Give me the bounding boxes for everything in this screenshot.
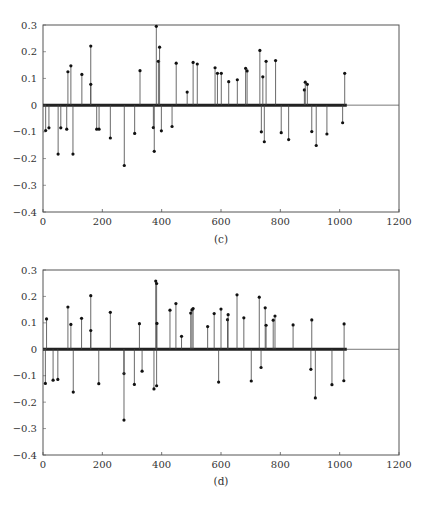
stem-marker: [69, 64, 72, 67]
stem-marker: [343, 72, 346, 75]
stem-marker: [325, 132, 328, 135]
stem-marker: [260, 130, 263, 133]
subfigure-caption: (d): [214, 475, 229, 487]
stem-marker: [342, 379, 345, 382]
stem-marker: [44, 382, 47, 385]
x-tick-label: 600: [211, 216, 230, 227]
stem-marker: [89, 294, 92, 297]
stem-marker: [310, 318, 313, 321]
x-tick-label: 400: [152, 216, 171, 227]
x-tick-label: 800: [271, 459, 290, 470]
stem-marker: [71, 152, 74, 155]
stem-marker: [264, 306, 267, 309]
x-tick-label: 200: [93, 216, 112, 227]
stem-marker: [310, 130, 313, 133]
x-tick-label: 1000: [327, 459, 352, 470]
stem-marker: [250, 379, 253, 382]
y-tick-label: −0.1: [13, 370, 37, 381]
stem-plot-c: 0200400600800100012000.30.20.10−0.1−0.2−…: [13, 20, 412, 246]
stem-marker: [155, 25, 158, 28]
y-tick-label: −0.2: [13, 397, 37, 408]
stem-marker: [59, 126, 62, 129]
stem-marker: [273, 314, 276, 317]
stem-marker: [236, 78, 239, 81]
stem-marker: [291, 323, 294, 326]
stem-marker: [65, 128, 68, 131]
stem-marker: [122, 419, 125, 422]
stem-marker: [226, 318, 229, 321]
stem-marker: [227, 80, 230, 83]
y-tick-label: 0.1: [21, 317, 37, 328]
y-tick-label: −0.3: [13, 180, 37, 191]
stem-marker: [69, 323, 72, 326]
stem-marker: [97, 382, 100, 385]
stem-marker: [155, 322, 158, 325]
y-tick-label: 0: [31, 100, 37, 111]
stem-marker: [138, 69, 141, 72]
stem-marker: [227, 313, 230, 316]
stem-marker: [213, 312, 216, 315]
stem-marker: [89, 83, 92, 86]
stem-marker: [264, 324, 267, 327]
stem-marker: [89, 329, 92, 332]
stem-marker: [261, 75, 264, 78]
stem-marker: [170, 125, 173, 128]
stem-marker: [219, 308, 222, 311]
stem-marker: [217, 380, 220, 383]
stem-marker: [123, 164, 126, 167]
stem-marker: [309, 368, 312, 371]
stem-marker: [155, 384, 158, 387]
y-tick-label: 0.3: [21, 20, 37, 31]
stem-marker: [274, 59, 277, 62]
plot-frame: [43, 270, 399, 455]
y-tick-label: −0.2: [13, 153, 37, 164]
stem-marker: [235, 293, 238, 296]
x-tick-label: 800: [271, 216, 290, 227]
stem-marker: [258, 296, 261, 299]
stem-marker: [160, 129, 163, 132]
stem-marker: [51, 379, 54, 382]
stem-plot-d: 0200400600800100012000.30.20.10−0.1−0.2−…: [13, 265, 412, 488]
y-tick-label: 0.2: [21, 291, 37, 302]
stem-marker: [155, 282, 158, 285]
y-tick-label: −0.3: [13, 423, 37, 434]
y-tick-label: −0.4: [13, 207, 37, 218]
stem-marker: [330, 383, 333, 386]
stem-marker: [213, 66, 216, 69]
x-tick-label: 1000: [327, 216, 352, 227]
stem-marker: [192, 307, 195, 310]
stem-marker: [315, 144, 318, 147]
y-tick-label: 0: [31, 344, 37, 355]
stem-marker: [89, 45, 92, 48]
stem-marker: [109, 136, 112, 139]
stem-marker: [174, 302, 177, 305]
x-tick-label: 200: [93, 459, 112, 470]
stem-marker: [280, 131, 283, 134]
stem-marker: [66, 305, 69, 308]
stem-marker: [72, 391, 75, 394]
stem-marker: [175, 62, 178, 65]
stem-marker: [306, 83, 309, 86]
stem-marker: [66, 70, 69, 73]
y-tick-label: 0.1: [21, 73, 37, 84]
stem-marker: [216, 72, 219, 75]
x-tick-label: 600: [211, 459, 230, 470]
y-tick-label: 0.3: [21, 265, 37, 276]
stem-marker: [264, 60, 267, 63]
y-tick-label: 0.2: [21, 46, 37, 57]
stem-marker: [220, 72, 223, 75]
x-tick-label: 1200: [386, 216, 411, 227]
stem-marker: [80, 73, 83, 76]
x-tick-label: 0: [40, 216, 46, 227]
stem-marker: [246, 69, 249, 72]
stem-marker: [341, 121, 344, 124]
stem-marker: [47, 126, 50, 129]
stem-marker: [186, 90, 189, 93]
stem-marker: [259, 366, 262, 369]
stem-marker: [80, 317, 83, 320]
stem-marker: [138, 322, 141, 325]
stem-marker: [314, 396, 317, 399]
stem-marker: [45, 317, 48, 320]
stem-marker: [180, 335, 183, 338]
stem-marker: [133, 132, 136, 135]
